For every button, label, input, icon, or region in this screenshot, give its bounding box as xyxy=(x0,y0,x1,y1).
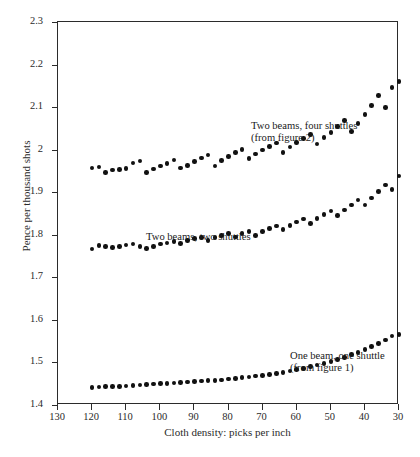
data-point xyxy=(117,244,122,249)
data-point xyxy=(178,166,183,171)
data-point xyxy=(226,154,231,159)
data-point xyxy=(233,150,238,155)
data-point xyxy=(213,164,218,169)
data-point xyxy=(117,384,122,389)
data-point xyxy=(151,167,156,172)
data-point xyxy=(363,203,368,208)
data-point xyxy=(260,373,265,378)
x-axis-tick-label: 70 xyxy=(245,412,279,423)
y-axis-tick-label: 2.2 xyxy=(9,59,43,70)
data-point xyxy=(397,79,402,84)
x-axis-tick xyxy=(159,404,160,410)
data-point xyxy=(97,385,102,390)
x-axis-tick xyxy=(398,404,399,410)
y-axis-tick-label: 1.5 xyxy=(9,356,43,367)
data-point xyxy=(356,198,361,203)
data-point xyxy=(315,216,320,221)
data-point xyxy=(110,168,115,173)
data-point xyxy=(144,382,149,387)
data-point xyxy=(138,244,143,249)
data-point xyxy=(90,247,95,252)
data-point xyxy=(274,371,279,376)
data-point xyxy=(158,381,163,386)
data-point xyxy=(247,375,252,380)
data-point xyxy=(178,380,183,385)
data-point xyxy=(281,150,286,155)
data-point xyxy=(240,147,245,152)
data-point xyxy=(165,381,170,386)
x-axis-tick-label: 30 xyxy=(381,412,415,423)
data-point xyxy=(363,112,368,117)
y-axis-tick-label: 1.4 xyxy=(9,399,43,410)
data-point xyxy=(185,380,190,385)
data-point xyxy=(281,227,286,232)
data-point xyxy=(247,156,252,161)
data-point xyxy=(322,212,327,217)
data-point xyxy=(281,370,286,375)
data-point xyxy=(213,378,218,383)
data-point xyxy=(97,243,102,248)
data-point xyxy=(301,217,306,222)
data-point xyxy=(103,170,108,175)
data-point xyxy=(240,375,245,380)
annotation-two-beams-four-shuttles: Two beams, four shuttles (from figure 2) xyxy=(251,120,357,145)
data-point xyxy=(219,158,224,163)
x-axis-tick xyxy=(57,404,58,410)
data-point xyxy=(185,163,190,168)
data-point xyxy=(369,103,374,108)
data-point xyxy=(267,226,272,231)
x-axis-tick xyxy=(296,404,297,410)
data-point xyxy=(151,382,156,387)
data-point xyxy=(260,148,265,153)
data-point xyxy=(131,242,136,247)
data-point xyxy=(199,379,204,384)
x-axis-tick-label: 50 xyxy=(313,412,347,423)
data-point xyxy=(172,381,177,386)
data-point xyxy=(144,170,149,175)
y-axis-tick-label: 1.6 xyxy=(9,314,43,325)
data-point xyxy=(329,209,334,214)
data-point xyxy=(131,161,136,166)
x-axis-tick-label: 110 xyxy=(108,412,142,423)
data-point xyxy=(199,156,204,161)
y-axis-title: Pence per thousand shots xyxy=(20,101,32,291)
x-axis-tick-label: 100 xyxy=(142,412,176,423)
data-point xyxy=(124,166,129,171)
data-point xyxy=(138,159,143,164)
data-point xyxy=(206,378,211,383)
x-axis-tick xyxy=(228,404,229,410)
x-axis-ticks: 13012011010090807060504030 xyxy=(57,404,398,428)
y-axis-tick-label: 2.3 xyxy=(9,16,43,27)
data-point xyxy=(124,243,129,248)
data-point xyxy=(376,189,381,194)
data-point xyxy=(172,158,177,163)
x-axis-tick-label: 40 xyxy=(347,412,381,423)
data-point xyxy=(158,164,163,169)
x-axis-tick xyxy=(91,404,92,410)
data-point xyxy=(390,85,395,90)
plot-area: Two beams, four shuttles (from figure 2)… xyxy=(57,21,398,404)
x-axis-title: Cloth density: picks per inch xyxy=(57,426,398,438)
data-point xyxy=(383,338,388,343)
x-axis-tick-label: 90 xyxy=(176,412,210,423)
data-point xyxy=(131,383,136,388)
data-point xyxy=(253,152,258,157)
data-point xyxy=(369,196,374,201)
data-point xyxy=(192,159,197,164)
annotation-one-beam-one-shuttle: One beam, one shuttle (from figure 1) xyxy=(290,350,385,375)
data-point xyxy=(383,105,388,110)
data-point xyxy=(219,378,224,383)
data-point xyxy=(274,224,279,229)
data-point xyxy=(144,246,149,251)
data-point xyxy=(124,384,129,389)
data-point xyxy=(226,377,231,382)
data-point xyxy=(342,208,347,213)
data-point xyxy=(206,153,211,158)
data-point xyxy=(253,374,258,379)
data-point xyxy=(369,344,374,349)
x-axis-tick-label: 120 xyxy=(74,412,108,423)
data-point xyxy=(383,183,388,188)
data-point xyxy=(138,383,143,388)
scatter-chart-figure: Two beams, four shuttles (from figure 2)… xyxy=(0,0,420,457)
data-points-layer xyxy=(58,22,397,403)
